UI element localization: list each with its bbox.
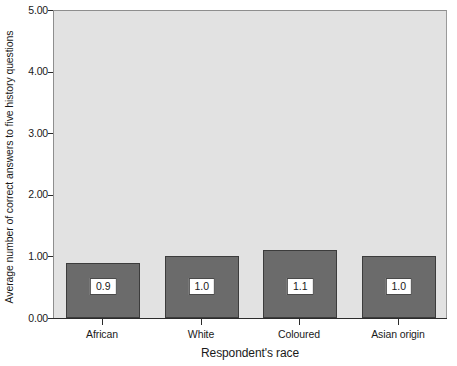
y-tick-label: 0.00 (14, 313, 48, 324)
x-tick-mark (201, 319, 202, 325)
y-tick-label: 4.00 (14, 66, 48, 77)
x-tick-mark (299, 319, 300, 325)
x-tick-label-african: African (86, 328, 118, 341)
x-tick-label-coloured: Coloured (278, 328, 320, 341)
y-axis-tick-labels: 5.00 4.00 3.00 2.00 1.00 0.00 (14, 0, 48, 366)
bar-value-label: 1.1 (287, 278, 313, 295)
y-tick-label: 1.00 (14, 251, 48, 262)
bar-african[interactable]: 0.9 (66, 263, 140, 318)
bar-value-label: 1.0 (189, 278, 215, 295)
bar-value-label: 0.9 (90, 278, 116, 295)
x-tick-label-asian-origin: Asian origin (371, 328, 425, 341)
bar-white[interactable]: 1.0 (165, 256, 239, 318)
bar-coloured[interactable]: 1.1 (263, 250, 337, 318)
x-tick-mark (398, 319, 399, 325)
y-tick-label: 3.00 (14, 128, 48, 139)
plot-inner: 0.9 1.0 1.1 1.0 (54, 11, 446, 318)
x-tick-label-white: White (188, 328, 214, 341)
y-tick-label: 2.00 (14, 189, 48, 200)
plot-area: 0.9 1.0 1.1 1.0 (53, 10, 447, 319)
bar-value-label: 1.0 (386, 278, 412, 295)
x-tick-mark (102, 319, 103, 325)
bar-chart-figure: Average number of correct answers to fiv… (0, 0, 457, 366)
bar-asian-origin[interactable]: 1.0 (362, 256, 436, 318)
y-tick-label: 5.00 (14, 5, 48, 16)
x-axis-line (53, 318, 447, 319)
x-axis-title: Respondent's race (53, 346, 447, 361)
